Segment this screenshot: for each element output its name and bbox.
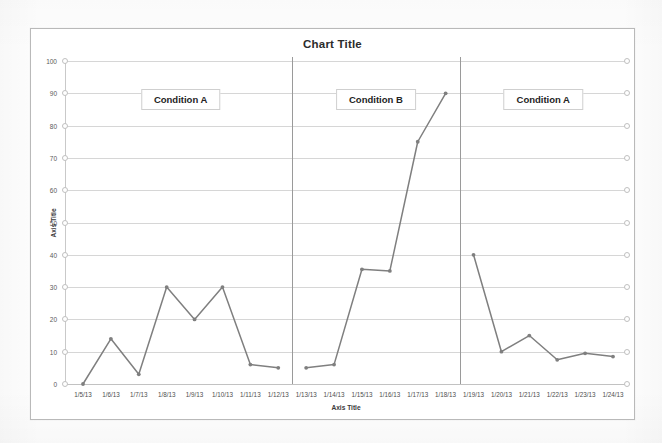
data-point-1-20-13 xyxy=(500,350,504,354)
y-tick-label-40: 40 xyxy=(50,251,57,258)
x-tick-label-1-21-13: 1/21/13 xyxy=(519,391,540,398)
condition-label-1: Condition A xyxy=(141,89,220,110)
data-point-1-9-13 xyxy=(193,318,197,322)
y-tick-label-10: 10 xyxy=(50,348,57,355)
condition-label-2: Condition B xyxy=(336,89,416,110)
data-point-1-24-13 xyxy=(611,355,615,359)
series-segment-2 xyxy=(306,93,445,368)
x-tick-label-1-19-13: 1/19/13 xyxy=(463,391,484,398)
data-point-1-14-13 xyxy=(332,363,336,367)
x-tick-label-1-17-13: 1/17/13 xyxy=(407,391,428,398)
data-point-1-16-13 xyxy=(388,269,392,273)
x-tick-label-1-13-13: 1/13/13 xyxy=(296,391,317,398)
x-tick-label-1-10-13: 1/10/13 xyxy=(212,391,233,398)
series-segment-3 xyxy=(474,255,613,360)
x-tick-label-1-11-13: 1/11/13 xyxy=(240,391,261,398)
data-point-1-13-13 xyxy=(304,366,308,370)
y-tick-label-70: 70 xyxy=(50,154,57,161)
x-tick-label-1-7-13: 1/7/13 xyxy=(130,391,148,398)
data-point-1-8-13 xyxy=(165,285,169,289)
condition-label-3: Condition A xyxy=(504,89,583,110)
data-point-1-21-13 xyxy=(527,334,531,338)
data-point-1-19-13 xyxy=(472,253,476,257)
x-tick-label-1-23-13: 1/23/13 xyxy=(575,391,596,398)
x-tick-label-1-5-13: 1/5/13 xyxy=(74,391,92,398)
x-tick-label-1-9-13: 1/9/13 xyxy=(186,391,204,398)
data-point-1-10-13 xyxy=(221,285,225,289)
y-tick-label-30: 30 xyxy=(50,284,57,291)
data-point-1-12-13 xyxy=(276,366,280,370)
x-tick-label-1-24-13: 1/24/13 xyxy=(602,391,623,398)
x-tick-label-1-18-13: 1/18/13 xyxy=(435,391,456,398)
data-point-1-15-13 xyxy=(360,267,364,271)
y-tick-label-0: 0 xyxy=(53,381,57,388)
data-point-1-5-13 xyxy=(81,382,85,386)
y-tick-label-20: 20 xyxy=(50,316,57,323)
data-point-1-7-13 xyxy=(137,372,141,376)
data-point-1-17-13 xyxy=(416,140,420,144)
chart-title: Chart Title xyxy=(31,38,634,50)
x-tick-label-1-14-13: 1/14/13 xyxy=(324,391,345,398)
plot-area: 0102030405060708090100 Condition ACondit… xyxy=(65,61,627,384)
y-tick-label-60: 60 xyxy=(50,187,57,194)
y-tick-label-90: 90 xyxy=(50,90,57,97)
chart-frame: Chart Title 0102030405060708090100 Condi… xyxy=(30,28,635,420)
data-point-1-23-13 xyxy=(583,351,587,355)
data-point-1-18-13 xyxy=(444,91,448,95)
x-axis-title: Axis Title xyxy=(65,404,627,411)
data-point-1-22-13 xyxy=(555,358,559,362)
series-segment-1 xyxy=(83,287,278,384)
y-tick-label-100: 100 xyxy=(46,58,57,65)
x-tick-label-1-16-13: 1/16/13 xyxy=(379,391,400,398)
y-tick-label-80: 80 xyxy=(50,122,57,129)
gridline-0 xyxy=(65,384,627,385)
data-point-1-6-13 xyxy=(109,337,113,341)
x-tick-label-1-8-13: 1/8/13 xyxy=(158,391,176,398)
x-tick-label-1-22-13: 1/22/13 xyxy=(547,391,568,398)
x-tick-label-1-12-13: 1/12/13 xyxy=(268,391,289,398)
y-axis-title: Axis Title xyxy=(50,208,57,237)
x-tick-label-1-15-13: 1/15/13 xyxy=(351,391,372,398)
data-point-1-11-13 xyxy=(248,363,252,367)
x-tick-label-1-20-13: 1/20/13 xyxy=(491,391,512,398)
x-tick-label-1-6-13: 1/6/13 xyxy=(102,391,120,398)
